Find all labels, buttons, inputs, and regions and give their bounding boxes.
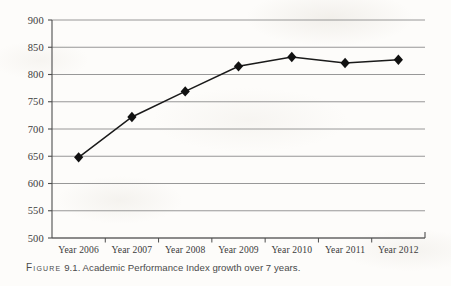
line-chart: 500550600650700750800850900 Year 2006Yea… bbox=[0, 0, 451, 258]
caption-text: 9.1. Academic Performance Index growth o… bbox=[64, 262, 300, 273]
y-axis-tick-label: 600 bbox=[28, 178, 44, 189]
y-axis-tick-label: 550 bbox=[28, 205, 44, 216]
x-axis-tick-label: Year 2011 bbox=[325, 244, 365, 255]
series-markers-group bbox=[74, 52, 403, 163]
x-axis-tick-labels: Year 2006Year 2007Year 2008Year 2009Year… bbox=[58, 244, 418, 255]
caption-figure-word: Figure bbox=[26, 262, 61, 273]
x-axis-tick-label: Year 2009 bbox=[218, 244, 259, 255]
y-axis-tick-label: 650 bbox=[28, 151, 44, 162]
x-axis-ticks-group bbox=[105, 238, 371, 243]
y-axis-tick-label: 500 bbox=[28, 233, 44, 244]
x-axis-tick-label: Year 2010 bbox=[271, 244, 312, 255]
y-axis-tick-label: 900 bbox=[28, 15, 44, 26]
x-axis-tick-label: Year 2007 bbox=[112, 244, 153, 255]
data-point-marker bbox=[181, 86, 190, 96]
data-point-marker bbox=[394, 55, 403, 65]
series-line-api bbox=[79, 57, 399, 157]
x-axis-tick-label: Year 2006 bbox=[58, 244, 99, 255]
y-axis-tick-label: 750 bbox=[28, 96, 44, 107]
figure-container: 500550600650700750800850900 Year 2006Yea… bbox=[0, 0, 451, 286]
y-axis-tick-label: 850 bbox=[28, 42, 44, 53]
data-point-marker bbox=[74, 152, 83, 162]
data-point-marker bbox=[287, 52, 296, 62]
gridlines-group bbox=[48, 20, 425, 238]
data-point-marker bbox=[127, 112, 136, 122]
data-point-marker bbox=[234, 61, 243, 71]
y-axis-tick-labels: 500550600650700750800850900 bbox=[28, 15, 44, 244]
figure-caption: Figure 9.1. Academic Performance Index g… bbox=[26, 262, 436, 273]
x-axis-tick-label: Year 2012 bbox=[378, 244, 419, 255]
y-axis-tick-label: 700 bbox=[28, 124, 44, 135]
x-axis-tick-label: Year 2008 bbox=[165, 244, 206, 255]
data-point-marker bbox=[340, 58, 349, 68]
y-axis-tick-label: 800 bbox=[28, 69, 44, 80]
